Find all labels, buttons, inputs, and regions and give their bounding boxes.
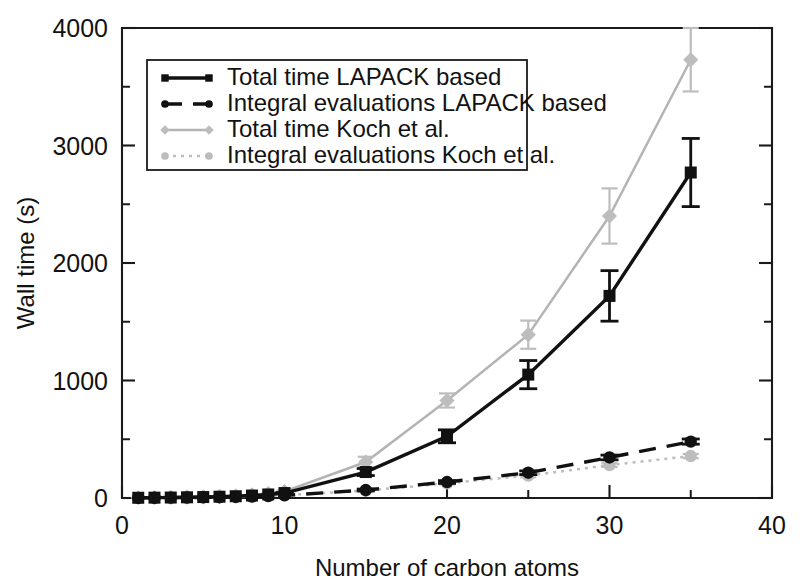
y-tick-label: 1000 bbox=[52, 367, 108, 395]
y-tick-label: 4000 bbox=[52, 14, 108, 42]
marker-square bbox=[522, 369, 534, 381]
marker-square bbox=[685, 167, 697, 179]
marker-circle bbox=[197, 491, 209, 503]
marker-circle bbox=[205, 152, 213, 160]
marker-circle bbox=[205, 100, 213, 108]
legend-label: Total time Koch et al. bbox=[227, 115, 450, 142]
figure-container: 01020304001000200030004000 Total time LA… bbox=[0, 0, 808, 583]
marker-square bbox=[360, 466, 372, 478]
marker-circle bbox=[230, 491, 242, 503]
x-tick-label: 30 bbox=[596, 511, 624, 539]
marker-circle bbox=[685, 450, 697, 462]
marker-diamond bbox=[602, 208, 617, 223]
x-tick-label: 10 bbox=[271, 511, 299, 539]
x-tick-label: 0 bbox=[115, 511, 129, 539]
marker-square bbox=[441, 430, 453, 442]
marker-circle bbox=[262, 490, 274, 502]
marker-circle bbox=[441, 476, 453, 488]
legend-label: Total time LAPACK based bbox=[227, 63, 501, 90]
y-tick-label: 3000 bbox=[52, 132, 108, 160]
y-tick-label: 2000 bbox=[52, 249, 108, 277]
marker-square bbox=[604, 290, 616, 302]
marker-circle bbox=[278, 489, 290, 501]
marker-circle bbox=[161, 152, 169, 160]
series-group bbox=[132, 138, 700, 503]
x-tick-label: 20 bbox=[433, 511, 461, 539]
marker-circle bbox=[148, 492, 160, 504]
marker-circle bbox=[246, 490, 258, 502]
marker-circle bbox=[161, 100, 169, 108]
marker-circle bbox=[603, 451, 615, 463]
marker-circle bbox=[522, 467, 534, 479]
marker-circle bbox=[132, 492, 144, 504]
legend-entry: Integral evaluations LAPACK based bbox=[161, 89, 607, 116]
y-axis-title: Wall time (s) bbox=[12, 197, 39, 329]
x-axis-title: Number of carbon atoms bbox=[315, 554, 579, 581]
marker-square bbox=[161, 74, 168, 81]
chart-legend: Total time LAPACK basedIntegral evaluati… bbox=[147, 60, 607, 170]
series-group bbox=[132, 435, 700, 504]
marker-diamond bbox=[683, 52, 698, 67]
y-tick-label: 0 bbox=[94, 484, 108, 512]
chart-canvas: 01020304001000200030004000 Total time LA… bbox=[0, 0, 808, 583]
legend-label: Integral evaluations Koch et al. bbox=[227, 141, 555, 168]
x-tick-label: 40 bbox=[758, 511, 786, 539]
marker-circle bbox=[360, 484, 372, 496]
marker-circle bbox=[685, 435, 697, 447]
legend-label: Integral evaluations LAPACK based bbox=[227, 89, 607, 116]
marker-circle bbox=[181, 491, 193, 503]
marker-circle bbox=[165, 491, 177, 503]
marker-circle bbox=[213, 491, 225, 503]
marker-square bbox=[205, 74, 212, 81]
